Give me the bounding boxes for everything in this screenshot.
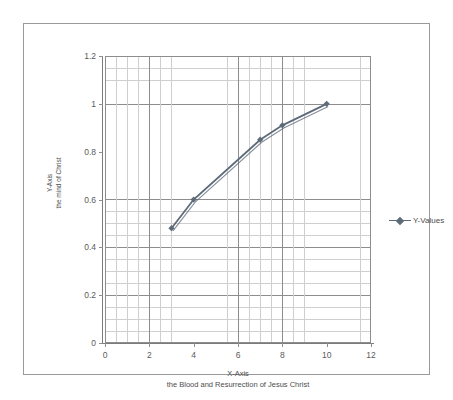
y-axis-title-sub: the mind of Christ — [54, 123, 63, 243]
x-tick-mark — [371, 343, 372, 347]
y-axis-title-main: Y-Axis — [45, 123, 54, 243]
chart-frame: 024681012 00.20.40.60.811.2 X-Axis the B… — [23, 23, 430, 375]
y-tick-label: 0.2 — [64, 290, 96, 300]
x-tick-label: 12 — [366, 350, 375, 360]
y-tick-label-wrap: 0.2 — [64, 295, 96, 305]
y-tick-label-wrap: 0.8 — [64, 152, 96, 162]
y-tick-mark — [99, 247, 103, 248]
y-tick-label-wrap: 1.2 — [64, 56, 96, 66]
y-tick-label: 0 — [64, 338, 96, 348]
x-tick-mark — [149, 343, 150, 347]
y-tick-label-wrap: 1 — [64, 104, 96, 114]
x-tick-label: 6 — [236, 350, 241, 360]
x-tick-label: 0 — [103, 350, 108, 360]
x-tick-label: 10 — [322, 350, 331, 360]
x-tick-mark — [327, 343, 328, 347]
y-tick-mark — [99, 200, 103, 201]
y-tick-label: 1.2 — [64, 51, 96, 61]
y-tick-mark — [99, 343, 103, 344]
x-axis-title: X-Axis the Blood and Resurrection of Jes… — [105, 368, 371, 390]
y-tick-label: 0.8 — [64, 147, 96, 157]
y-tick-label: 0.6 — [64, 195, 96, 205]
y-tick-label: 0.4 — [64, 242, 96, 252]
legend-label-y-values: Y-Values — [413, 216, 444, 225]
legend-line-marker-icon — [389, 216, 411, 225]
y-axis-title: Y-Axis the mind of Christ — [45, 123, 63, 243]
y-tick-label-wrap: 0.6 — [64, 200, 96, 210]
x-tick-mark — [282, 343, 283, 347]
x-axis-title-main: X-Axis — [105, 368, 371, 379]
y-tick-label-wrap: 0 — [64, 343, 96, 353]
y-tick-label-wrap: 0.4 — [64, 247, 96, 257]
plot-area-gridlines — [105, 56, 371, 343]
y-tick-label: 1 — [64, 99, 96, 109]
x-tick-mark — [194, 343, 195, 347]
x-tick-label: 8 — [280, 350, 285, 360]
legend[interactable]: Y-Values — [389, 216, 444, 225]
y-tick-mark — [99, 56, 103, 57]
x-axis-title-sub: the Blood and Resurrection of Jesus Chri… — [105, 379, 371, 390]
x-tick-mark — [105, 343, 106, 347]
x-tick-mark — [238, 343, 239, 347]
x-tick-label: 2 — [147, 350, 152, 360]
y-tick-mark — [99, 104, 103, 105]
x-tick-label: 4 — [191, 350, 196, 360]
y-tick-mark — [99, 295, 103, 296]
y-tick-mark — [99, 152, 103, 153]
